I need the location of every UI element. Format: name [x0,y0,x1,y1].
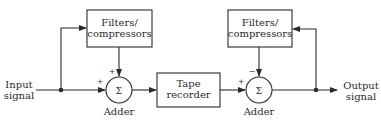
svg-text:compressors: compressors [228,28,292,39]
plus-sign-left: + [97,77,104,86]
svg-text:signal: signal [346,91,376,102]
adder-left: Σ + + Adder [97,67,135,117]
svg-text:Input: Input [5,79,32,90]
svg-text:Filters/: Filters/ [242,17,279,28]
sigma-icon: Σ [116,86,122,96]
adder-label-right: Adder [243,106,275,117]
svg-text:compressors: compressors [87,28,151,39]
svg-text:Filters/: Filters/ [101,17,138,28]
svg-text:recorder: recorder [166,89,210,100]
svg-text:Output: Output [343,80,379,91]
filter-compressor-box-left: Filters/ compressors [87,10,152,47]
svg-text:Tape: Tape [176,78,200,89]
svg-text:signal: signal [4,90,34,101]
output-signal-label: Output signal [343,80,379,102]
input-to-filter-arrow [61,28,86,90]
plus-sign-left: + [238,77,245,86]
input-signal-label: Input signal [4,79,34,101]
adder-right: Σ − + Adder [238,67,275,117]
encode-decode-block-diagram: Input signal Filters/ compressors Σ + + … [0,0,381,120]
sigma-icon: Σ [256,86,262,96]
minus-sign-top: − [249,67,256,76]
tape-recorder-box: Tape recorder [157,73,220,107]
filter-compressor-box-right: Filters/ compressors [228,10,292,47]
plus-sign-top: + [109,67,116,76]
output-to-filter-arrow [293,29,316,90]
adder-label-left: Adder [103,106,135,117]
